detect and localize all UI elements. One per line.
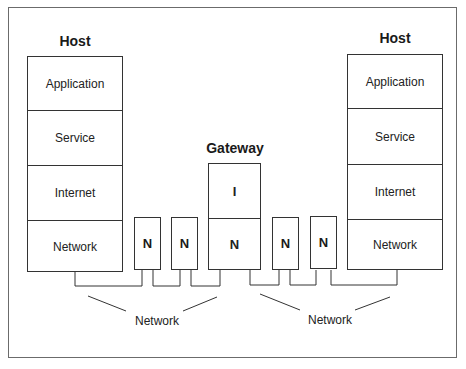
- protocol-stack-diagram: Host Application Service Internet Networ…: [0, 0, 466, 369]
- router-n1: N: [134, 217, 161, 270]
- right-host-internet-layer: Internet: [348, 164, 442, 219]
- right-host-service-layer: Service: [348, 108, 442, 164]
- right-host-title: Host: [347, 30, 443, 46]
- network-label-right: Network: [308, 313, 352, 327]
- router-n2: N: [171, 217, 198, 270]
- left-host-application-layer: Application: [28, 57, 122, 110]
- gateway-network-layer: N: [209, 218, 260, 270]
- router-n4: N: [310, 216, 337, 269]
- gateway-title: Gateway: [200, 140, 270, 156]
- left-host-title: Host: [27, 33, 123, 49]
- left-host-stack: Application Service Internet Network: [27, 56, 123, 272]
- left-host-service-layer: Service: [28, 110, 122, 165]
- network-label-left: Network: [135, 314, 179, 328]
- right-host-network-layer: Network: [348, 219, 442, 270]
- left-host-network-layer: Network: [28, 220, 122, 272]
- router-n3: N: [272, 217, 299, 270]
- left-host-internet-layer: Internet: [28, 165, 122, 220]
- right-host-stack: Application Service Internet Network: [347, 54, 443, 270]
- gateway-stack: I N: [208, 163, 261, 270]
- right-host-application-layer: Application: [348, 55, 442, 108]
- gateway-internet-layer: I: [209, 164, 260, 218]
